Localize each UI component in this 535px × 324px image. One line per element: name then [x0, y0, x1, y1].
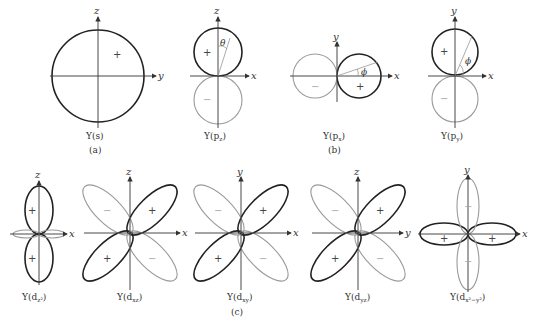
z-axis-label: z — [125, 166, 132, 177]
plus-sign: + — [28, 253, 36, 264]
z-axis-label: z — [34, 169, 41, 180]
minus-sign: − — [203, 94, 211, 105]
y-axis-label: y — [157, 70, 164, 81]
caption-s: Y(s) — [85, 131, 104, 141]
minus-sign: − — [311, 81, 319, 92]
phi-label: ϕ — [465, 56, 471, 66]
plus-sign: + — [148, 205, 156, 216]
minus-sign: − — [464, 256, 472, 267]
plus-sign: + — [488, 233, 496, 244]
x-axis-label: x — [394, 70, 400, 81]
caption-px: Y(px) — [322, 131, 345, 142]
y-axis-label: y — [332, 31, 339, 42]
panel-label-c: (c) — [231, 307, 243, 317]
panel-label-a: (a) — [89, 145, 101, 155]
orbital-diagram: z y + Y(s) (a) z x θ + − Y(pz) y x ϕ + −… — [0, 0, 535, 324]
caption-dxy: Y(dxy) — [226, 292, 253, 304]
plot-dxz-orbital: z x + + − − Y(dxz) — [75, 166, 188, 303]
plus-sign: + — [28, 205, 36, 216]
panel-label-b: (b) — [328, 145, 341, 155]
plus-sign: + — [259, 205, 267, 216]
x-axis-label: x — [69, 228, 75, 239]
plot-pz-orbital: z x θ + − Y(pz) — [190, 5, 257, 142]
x-axis-label: x — [182, 227, 188, 238]
plot-dx2y2-orbital: y x + + − − Y(dx²−y²) — [418, 164, 528, 304]
plot-dxy-orbital: y x + + − − Y(dxy) (c) — [186, 166, 299, 317]
y-axis-label: y — [463, 164, 470, 175]
plot-py-orbital: y x ϕ + − Y(py) — [428, 5, 494, 143]
phi-label: ϕ — [361, 67, 367, 77]
caption-dxz: Y(dxz) — [116, 292, 142, 303]
plot-s-orbital: z y + Y(s) (a) — [50, 5, 164, 155]
caption-dz2: Y(dz²) — [21, 292, 46, 303]
minus-sign: − — [440, 93, 448, 104]
radius-line — [337, 62, 378, 76]
caption-py: Y(py) — [440, 131, 463, 143]
minus-sign: − — [464, 201, 472, 212]
plus-sign: + — [440, 233, 448, 244]
minus-sign: − — [103, 205, 111, 216]
plus-sign: + — [214, 253, 222, 264]
minus-sign: − — [259, 253, 267, 264]
x-axis-label: x — [251, 70, 257, 81]
caption-dyz: Y(dyz) — [344, 292, 370, 304]
plot-px-orbital: y x ϕ + − Y(px) (b) — [290, 31, 400, 155]
y-axis-label: y — [450, 5, 457, 16]
x-axis-label: x — [488, 70, 494, 81]
theta-label: θ — [220, 38, 226, 48]
plus-sign: + — [356, 81, 364, 92]
z-axis-label: z — [93, 5, 100, 16]
caption-dx2y2: Y(dx²−y²) — [449, 292, 485, 304]
y-axis-label: y — [236, 166, 243, 177]
plot-dyz-orbital: z y + + − − Y(dyz) — [303, 166, 412, 304]
minus-sign: − — [331, 205, 339, 216]
x-axis-label: x — [293, 227, 299, 238]
plus-sign: + — [203, 47, 211, 58]
minus-sign: − — [376, 253, 384, 264]
y-axis-label: y — [404, 227, 411, 238]
plus-sign: + — [103, 253, 111, 264]
plus-sign: + — [440, 46, 448, 57]
plus-sign: + — [376, 205, 384, 216]
x-axis-label: x — [522, 228, 528, 239]
minus-sign: − — [214, 205, 222, 216]
caption-pz: Y(pz) — [203, 131, 226, 142]
z-axis-label: z — [353, 166, 360, 177]
plus-sign: + — [331, 253, 339, 264]
z-axis-label: z — [213, 5, 220, 16]
minus-sign: − — [148, 253, 156, 264]
plus-sign: + — [113, 49, 121, 60]
phi-arc — [357, 69, 358, 76]
plot-dz2-orbital: z x + + Y(dz²) — [10, 169, 75, 303]
